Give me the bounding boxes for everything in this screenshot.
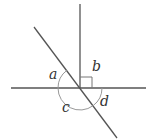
right-angle-marker <box>80 77 92 88</box>
angle-label-c: c <box>62 99 70 115</box>
angle-label-d: d <box>100 93 109 109</box>
angle-label-a: a <box>49 66 57 82</box>
angle-label-b: b <box>92 58 101 74</box>
angle-arc-a <box>58 70 67 88</box>
angle-diagram: a b c d <box>0 0 154 140</box>
diagonal-line <box>34 27 117 138</box>
